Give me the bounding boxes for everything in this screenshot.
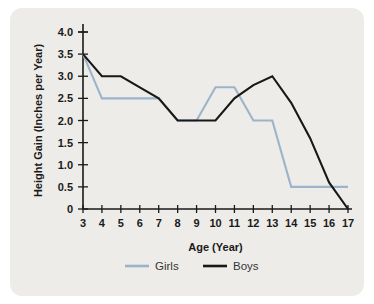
y-tick-label: 0.5 — [58, 181, 73, 193]
x-tick-label: 4 — [99, 217, 106, 229]
series-line-boys — [83, 54, 348, 209]
chart-legend: GirlsBoys — [125, 260, 259, 272]
x-tick-label: 17 — [342, 217, 354, 229]
y-tick-label: 3.5 — [58, 48, 73, 60]
y-tick-label: 2.0 — [58, 115, 73, 127]
y-tick-label: 2.5 — [58, 92, 73, 104]
x-tick-label: 10 — [209, 217, 221, 229]
x-tick-label: 8 — [175, 217, 181, 229]
y-tick-label: 1.0 — [58, 159, 73, 171]
x-tick-label: 3 — [80, 217, 86, 229]
data-series-group — [83, 54, 348, 209]
y-tick-label: 1.5 — [58, 137, 73, 149]
x-tick-label: 9 — [194, 217, 200, 229]
y-tick-label: 0 — [67, 203, 73, 215]
x-tick-label: 12 — [247, 217, 259, 229]
y-tick-label: 4.0 — [58, 26, 73, 38]
x-tick-label: 13 — [266, 217, 278, 229]
x-tick-label: 7 — [156, 217, 162, 229]
x-tick-label: 15 — [304, 217, 316, 229]
chart-panel: 4.03.53.02.52.01.51.00.50 34567891011121… — [10, 8, 364, 296]
line-chart-plot: 4.03.53.02.52.01.51.00.50 34567891011121… — [10, 8, 364, 296]
x-tick-label: 14 — [285, 217, 298, 229]
legend-label-girls: Girls — [155, 260, 179, 272]
x-tick-label: 5 — [118, 217, 124, 229]
x-tick-label: 11 — [229, 217, 241, 229]
y-axis-title: Height Gain (Inches per Year) — [32, 44, 44, 198]
chart-figure: 4.03.53.02.52.01.51.00.50 34567891011121… — [0, 0, 374, 304]
y-tick-label: 3.0 — [58, 70, 73, 82]
x-tick-label: 16 — [323, 217, 335, 229]
legend-label-boys: Boys — [233, 260, 259, 272]
x-axis-title: Age (Year) — [188, 241, 243, 253]
x-tick-label: 6 — [137, 217, 143, 229]
